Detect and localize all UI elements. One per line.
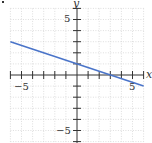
y-tick-label-5: 5	[64, 13, 70, 24]
axes	[10, 8, 144, 143]
x-tick-label-neg5: −5	[14, 81, 29, 92]
corner-mark	[2, 1, 4, 3]
x-axis-label: x	[146, 68, 152, 81]
coordinate-plane: x y −5 5 5 −5	[0, 0, 152, 143]
y-axis-label: y	[72, 0, 80, 10]
x-tick-label-5: 5	[129, 81, 135, 92]
y-tick-label-neg5: −5	[56, 125, 71, 136]
